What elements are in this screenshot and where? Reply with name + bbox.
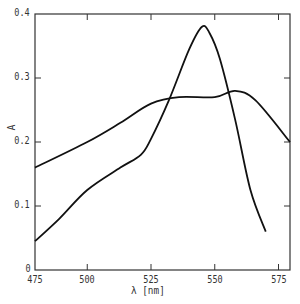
peak-curve (35, 26, 266, 241)
x-axis-label: λ [nm] (131, 286, 165, 296)
y-tick-label: 0.4 (14, 8, 29, 18)
y-tick-label: 0 (25, 264, 30, 274)
absorbance-chart (0, 0, 300, 304)
x-tick-label: 475 (27, 275, 42, 285)
data-curves (35, 26, 290, 241)
x-tick-label: 550 (207, 275, 222, 285)
plot-frame (35, 14, 290, 270)
broad-band-curve (35, 91, 290, 168)
y-tick-label: 0.2 (14, 136, 29, 146)
x-tick-label: 500 (80, 275, 95, 285)
y-axis-label: A (6, 124, 17, 130)
y-tick-label: 0.1 (14, 200, 29, 210)
y-tick-label: 0.3 (14, 72, 29, 82)
axis-ticks (35, 14, 290, 270)
x-tick-label: 575 (271, 275, 286, 285)
